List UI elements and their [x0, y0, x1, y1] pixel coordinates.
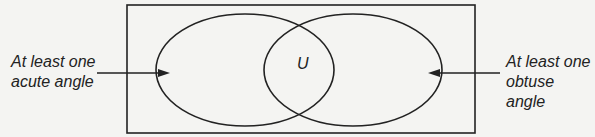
left-arrow-head-icon [158, 69, 170, 77]
universal-set-label: U [297, 54, 309, 74]
right-set-label: At least one obtuse angle [506, 52, 595, 112]
left-set-label-line-2: acute angle [11, 72, 96, 92]
right-set-label-line-2: obtuse angle [506, 72, 595, 112]
left-set-label-line-1: At least one [11, 52, 96, 72]
right-set-label-line-1: At least one [506, 52, 595, 72]
right-arrow-head-icon [428, 69, 440, 77]
left-set-label: At least one acute angle [11, 52, 96, 92]
right-set-ellipse [264, 14, 442, 126]
